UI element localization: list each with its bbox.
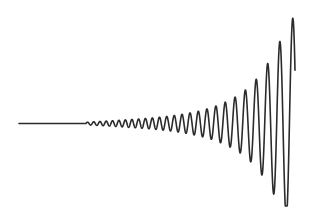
waveform-figure — [0, 0, 313, 208]
waveform-chart — [0, 0, 313, 208]
